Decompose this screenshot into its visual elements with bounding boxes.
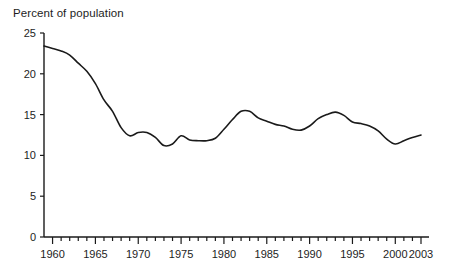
x-tick-label: 1960 <box>40 248 64 260</box>
chart-container: Percent of population 0510152025 1960196… <box>0 0 449 265</box>
x-tick-label: 1975 <box>169 248 193 260</box>
x-tick-label: 2000 <box>383 248 407 260</box>
x-tick-label: 1970 <box>126 248 150 260</box>
x-axis-ticks: 1960196519701975198019851990199520002003 <box>40 237 433 260</box>
x-tick-label: 1985 <box>255 248 279 260</box>
y-tick-label: 20 <box>24 68 36 80</box>
x-tick-label: 2003 <box>409 248 433 260</box>
y-tick-label: 15 <box>24 109 36 121</box>
data-series-line <box>44 46 421 146</box>
y-tick-label: 25 <box>24 27 36 39</box>
x-tick-label: 1990 <box>297 248 321 260</box>
line-chart-plot: 0510152025 19601965197019751980198519901… <box>0 0 449 265</box>
x-tick-label: 1980 <box>212 248 236 260</box>
y-tick-label: 0 <box>30 231 36 243</box>
y-tick-label: 10 <box>24 149 36 161</box>
y-axis-ticks: 0510152025 <box>24 27 44 243</box>
x-tick-label: 1995 <box>340 248 364 260</box>
y-tick-label: 5 <box>30 190 36 202</box>
x-tick-label: 1965 <box>83 248 107 260</box>
